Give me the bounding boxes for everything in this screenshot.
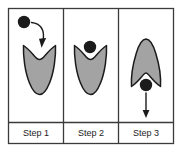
step-labels-row: Step 1 Step 2 Step 3 [23, 128, 159, 138]
three-step-diagram: Step 1 Step 2 Step 3 [0, 0, 181, 152]
panel-1-ball [18, 16, 30, 28]
figure-root: Step 1 Step 2 Step 3 [0, 0, 181, 152]
panel-2-label: Step 2 [78, 128, 104, 138]
panel-2-ball [84, 41, 96, 53]
panel-3-ball [140, 79, 152, 91]
panel-1-label: Step 1 [23, 128, 49, 138]
panel-3-label: Step 3 [133, 128, 159, 138]
